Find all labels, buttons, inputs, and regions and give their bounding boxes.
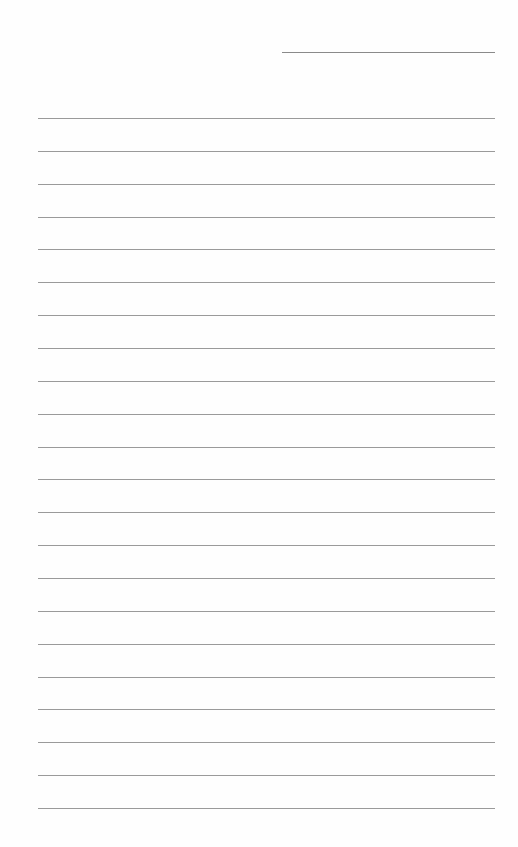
ruled-line [38,644,495,645]
lined-paper-page [0,0,518,847]
ruled-line [38,381,495,382]
ruled-line [38,414,495,415]
ruled-line [38,611,495,612]
ruled-line [38,512,495,513]
ruled-line [38,742,495,743]
ruled-line [38,315,495,316]
ruled-line [38,775,495,776]
ruled-line [38,282,495,283]
ruled-line [38,348,495,349]
ruled-line [38,545,495,546]
ruled-line [38,709,495,710]
ruled-line [38,217,495,218]
ruled-line [38,184,495,185]
ruled-line [38,447,495,448]
header-date-line [282,52,495,53]
ruled-line [38,151,495,152]
ruled-line [38,118,495,119]
ruled-line [38,578,495,579]
ruled-line [38,808,495,809]
ruled-line [38,479,495,480]
ruled-line [38,677,495,678]
ruled-line [38,249,495,250]
